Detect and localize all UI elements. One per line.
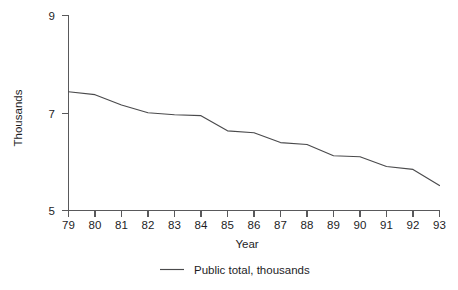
x-tick-label-90: 90	[354, 219, 367, 231]
line-chart: Thousands 9 7 5 79 80 81 82 83	[0, 0, 458, 290]
x-tick-label-92: 92	[407, 219, 420, 231]
x-tick-label-93: 93	[433, 219, 446, 231]
x-tick-label-83: 83	[168, 219, 181, 231]
x-tick-label-88: 88	[301, 219, 314, 231]
x-tick-label-80: 80	[89, 219, 102, 231]
chart-page: Thousands 9 7 5 79 80 81 82 83	[0, 0, 458, 290]
x-tick-label-81: 81	[115, 219, 128, 231]
x-tick-label-91: 91	[380, 219, 393, 231]
x-tick-label-89: 89	[327, 219, 340, 231]
y-tick-label-5: 5	[49, 205, 55, 217]
x-tick-label-79: 79	[62, 219, 75, 231]
y-tick-label-7: 7	[49, 108, 55, 120]
x-axis-title: Year	[235, 238, 258, 250]
x-tick-label-85: 85	[221, 219, 234, 231]
x-tick-label-86: 86	[248, 219, 261, 231]
x-tick-label-82: 82	[142, 219, 155, 231]
legend-label-public-total: Public total, thousands	[194, 264, 310, 276]
x-tick-label-84: 84	[195, 219, 208, 231]
y-tick-label-9: 9	[49, 10, 55, 22]
series-line-public-total	[69, 92, 440, 186]
y-axis-title: Thousands	[12, 89, 24, 146]
x-tick-label-87: 87	[274, 219, 287, 231]
